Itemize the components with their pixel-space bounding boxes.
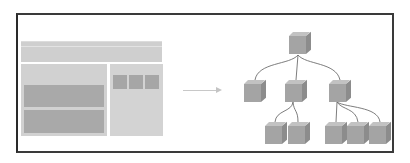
cube-node-child-1 <box>244 80 266 102</box>
cube-node-child-3 <box>329 80 351 102</box>
edge-root-child-1 <box>255 55 298 80</box>
cube-node-child-3-c <box>369 122 391 144</box>
cube-node-child-3-a <box>325 122 347 144</box>
cube-node-child-2 <box>285 80 307 102</box>
edge-child-2-b <box>293 102 298 122</box>
cube-node-child-3-b <box>347 122 369 144</box>
edge-child-3-a <box>336 102 337 122</box>
cube-node-root <box>289 32 311 54</box>
cube-node-child-2-a <box>265 122 287 144</box>
edge-child-3-c <box>337 102 380 122</box>
edge-root-child-2 <box>296 55 298 80</box>
edge-child-2-a <box>275 102 293 122</box>
cube-node-child-2-b <box>288 122 310 144</box>
edge-root-child-3 <box>298 55 340 80</box>
